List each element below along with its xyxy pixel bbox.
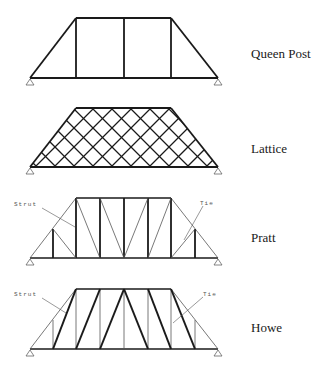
- pratt-truss: [30, 198, 218, 258]
- queen-post-label: Queen Post: [251, 46, 311, 62]
- howe-label: Howe: [251, 320, 282, 336]
- pratt-tie-callout: Tie: [200, 200, 214, 207]
- howe-tie-callout: Tie: [203, 291, 217, 298]
- support-icon: [26, 79, 222, 85]
- howe-truss: [30, 289, 218, 349]
- howe-strut-callout: Strut: [14, 291, 37, 298]
- support-icon: [26, 259, 222, 265]
- queen-post-truss: [30, 18, 218, 78]
- support-icon: [26, 350, 222, 356]
- lattice-truss: [0, 108, 314, 167]
- pratt-strut-callout: Strut: [14, 201, 37, 208]
- support-icon: [26, 168, 222, 174]
- lattice-label: Lattice: [251, 141, 287, 157]
- pratt-label: Pratt: [251, 230, 276, 246]
